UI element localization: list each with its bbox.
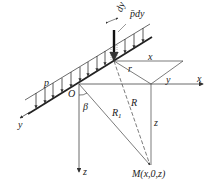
label-x-axis: x: [196, 73, 202, 84]
y-axis: [20, 112, 30, 118]
label-dy: dy: [113, 0, 127, 13]
label-beta: β: [82, 101, 88, 112]
label-z-axis: z: [82, 166, 87, 177]
label-origin: O: [68, 88, 75, 99]
label-R: R: [130, 97, 137, 108]
label-R1: R1: [111, 107, 122, 120]
label-y-distance: y: [165, 74, 171, 85]
line-load-diagram: dy p̄dy p O β x y z x y r R R1 z M(x,0,z…: [0, 0, 216, 194]
label-pdy: p̄dy: [129, 8, 145, 19]
label-vertical-z: z: [153, 117, 158, 128]
label-point-M: M(x,0,z): [131, 168, 166, 180]
element-load: [108, 18, 126, 60]
label-r: r: [128, 63, 132, 74]
label-y-axis: y: [17, 119, 23, 130]
label-p: p: [43, 77, 49, 88]
label-x-distance: x: [147, 51, 153, 62]
